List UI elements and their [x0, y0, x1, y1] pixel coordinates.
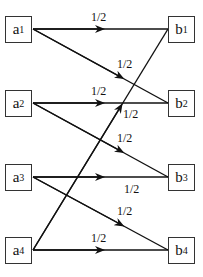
node-b2: b2 — [168, 90, 195, 117]
node-b3: b3 — [168, 164, 195, 191]
node-a1: a1 — [5, 16, 32, 43]
weight-a3-b4: 1/2 — [117, 205, 132, 217]
node-index: 3 — [183, 172, 188, 183]
node-a4: a4 — [5, 237, 32, 264]
node-index: 1 — [183, 24, 188, 35]
node-index: 2 — [183, 98, 188, 109]
node-index: 4 — [183, 245, 188, 256]
node-letter: a — [13, 95, 20, 112]
node-index: 1 — [19, 24, 24, 35]
node-letter: b — [175, 242, 183, 259]
weight-a4-b4: 1/2 — [91, 232, 106, 244]
node-index: 2 — [19, 98, 24, 109]
node-a2: a2 — [5, 90, 32, 117]
node-letter: a — [13, 242, 20, 259]
node-a3: a3 — [5, 164, 32, 191]
weight-a4-b1: 1/2 — [123, 108, 138, 120]
node-index: 4 — [19, 245, 24, 256]
weight-a1-b2: 1/2 — [117, 58, 132, 70]
weight-a2-b3: 1/2 — [117, 132, 132, 144]
node-letter: b — [175, 95, 183, 112]
weight-a3-b3: 1/2 — [124, 183, 139, 195]
weight-a1-b1: 1/2 — [91, 11, 106, 23]
node-letter: b — [175, 21, 183, 38]
node-letter: a — [13, 169, 20, 186]
weight-a2-b2: 1/2 — [91, 85, 106, 97]
node-index: 3 — [19, 172, 24, 183]
node-b1: b1 — [168, 16, 195, 43]
node-letter: a — [13, 21, 20, 38]
node-letter: b — [175, 169, 183, 186]
node-b4: b4 — [168, 237, 195, 264]
